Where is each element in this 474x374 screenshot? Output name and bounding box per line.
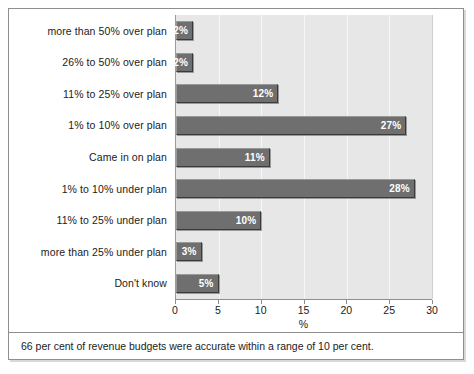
x-axis-tick-label: 5 (215, 304, 221, 316)
bar-value-label: 11% (245, 152, 269, 163)
bar-value-label: 2% (173, 57, 192, 68)
bar-series: 2%2%12%27%11%28%10%3%5% (176, 15, 432, 299)
bar-value-label: 10% (236, 215, 261, 226)
bar-row: 28% (176, 173, 432, 205)
x-axis-tick-label: 0 (172, 304, 178, 316)
x-axis-tick-label: 15 (298, 304, 310, 316)
bar-row: 3% (176, 236, 432, 268)
bar-row: 10% (176, 204, 432, 236)
bar-value-label: 2% (173, 25, 192, 36)
bar-value-label: 28% (389, 183, 414, 194)
bar-row: 11% (176, 141, 432, 173)
x-axis-tick-label: 20 (340, 304, 352, 316)
x-axis-tick-label: 25 (383, 304, 395, 316)
bar: 5% (176, 274, 219, 293)
y-axis-label: 26% to 50% over plan (9, 47, 175, 79)
bar-row: 2% (176, 15, 432, 47)
figure-frame: more than 50% over plan26% to 50% over p… (8, 8, 464, 360)
y-axis-category-labels: more than 50% over plan26% to 50% over p… (9, 15, 175, 299)
y-axis-label: 11% to 25% over plan (9, 78, 175, 110)
bar-row: 2% (176, 47, 432, 79)
x-axis: % 051015202530 (175, 299, 432, 332)
bar-value-label: 27% (381, 120, 406, 131)
y-axis-label: Came in on plan (9, 141, 175, 173)
bar-value-label: 3% (182, 246, 201, 257)
y-axis-label: 1% to 10% under plan (9, 173, 175, 205)
bar: 11% (176, 148, 270, 167)
x-axis-title: % (299, 318, 308, 330)
plot-area: 2%2%12%27%11%28%10%3%5% (175, 15, 432, 299)
y-axis-label: 11% to 25% under plan (9, 204, 175, 236)
bar-row: 5% (176, 268, 432, 300)
bar-row: 27% (176, 110, 432, 142)
bar: 12% (176, 84, 278, 103)
bar: 2% (176, 53, 193, 72)
bar-value-label: 12% (253, 88, 278, 99)
x-axis-tick-label: 10 (255, 304, 267, 316)
bar: 10% (176, 211, 261, 230)
y-axis-label: more than 25% under plan (9, 236, 175, 268)
y-axis-label: 1% to 10% over plan (9, 110, 175, 142)
bar: 27% (176, 116, 406, 135)
gridline (432, 15, 433, 299)
bar-value-label: 5% (199, 278, 218, 289)
x-axis-tick-label: 30 (426, 304, 438, 316)
bar: 28% (176, 179, 415, 198)
bar-row: 12% (176, 78, 432, 110)
y-axis-label: Don't know (9, 268, 175, 300)
chart-region: more than 50% over plan26% to 50% over p… (9, 9, 463, 332)
bar: 2% (176, 21, 193, 40)
bar: 3% (176, 242, 202, 261)
y-axis-label: more than 50% over plan (9, 15, 175, 47)
figure-caption: 66 per cent of revenue budgets were accu… (9, 333, 463, 359)
